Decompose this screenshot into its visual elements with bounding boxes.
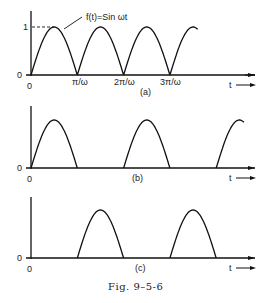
waveform-a: [31, 27, 198, 75]
x-tick-pi: π/ω: [72, 77, 88, 87]
y-tick-zero-c: 0: [17, 253, 22, 263]
leader-line: [64, 17, 82, 29]
x-tick-2pi: 2π/ω: [114, 77, 135, 87]
y-tick-one: 1: [23, 22, 28, 32]
t-arrow-c-icon: [248, 256, 255, 260]
panel-label-c: (c): [135, 263, 146, 273]
arrowhead-icon: [250, 266, 256, 270]
panel-c: [26, 197, 255, 259]
t-arrow-a-icon: [248, 73, 255, 77]
t-label-c: t: [229, 263, 232, 273]
panel-a: [26, 11, 255, 76]
panel-label-a: (a): [140, 87, 151, 97]
y-tick-zero-b: 0: [17, 163, 22, 173]
arrowhead-icon: [250, 176, 256, 180]
waveform-c: [77, 210, 216, 258]
function-label: f(t)=Sin ωt: [86, 12, 128, 22]
x-tick-zero-c: 0: [27, 264, 32, 274]
x-tick-zero-b: 0: [27, 174, 32, 184]
x-tick-zero-a: 0: [27, 81, 32, 91]
waveform-b: [31, 120, 244, 168]
t-label-a: t: [229, 80, 232, 90]
t-arrow-b-icon: [248, 166, 255, 170]
y-tick-zero-a: 0: [17, 70, 22, 80]
arrowhead-icon: [250, 83, 256, 87]
figure: f(t)=Sin ωt 1 0 0 π/ω 2π/ω 3π/ω (a) t 0 …: [0, 0, 272, 303]
t-label-b: t: [229, 173, 232, 183]
panel-label-b: (b): [132, 173, 143, 183]
panel-b: [26, 106, 255, 169]
x-tick-3pi: 3π/ω: [160, 77, 181, 87]
figure-caption: Fig. 9–5-6: [108, 281, 163, 292]
